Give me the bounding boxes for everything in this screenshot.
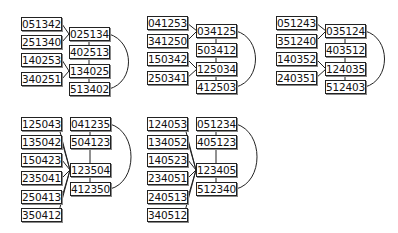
node-right-1: 025134: [69, 27, 110, 41]
node-right-1: 051234: [196, 117, 237, 131]
node-right-3: 123405: [196, 163, 237, 177]
node-right-3: 124035: [325, 62, 366, 76]
node-right-1: 035124: [325, 24, 366, 38]
node-left-4: 234051: [147, 171, 188, 185]
node-left-2: 351240: [276, 34, 317, 48]
node-left-4: 240351: [276, 71, 317, 85]
node-left-5: 240513: [147, 190, 188, 204]
node-left-1: 125043: [21, 117, 62, 131]
node-left-4: 235041: [21, 171, 62, 185]
node-left-2: 341250: [147, 34, 188, 48]
node-left-3: 140253: [21, 53, 62, 67]
node-right-4: 412503: [196, 80, 237, 94]
node-left-3: 150342: [147, 52, 188, 66]
node-right-2: 403512: [325, 43, 366, 57]
node-left-5: 250413: [21, 190, 62, 204]
node-left-3: 150423: [21, 153, 62, 167]
node-right-2: 504123: [70, 135, 111, 149]
node-right-1: 041235: [70, 117, 111, 131]
node-left-1: 051342: [21, 17, 62, 31]
node-right-3: 123504: [70, 163, 111, 177]
node-right-4: 512403: [325, 80, 366, 94]
node-right-2: 503412: [196, 43, 237, 57]
node-left-6: 340512: [147, 208, 188, 222]
node-left-1: 124053: [147, 117, 188, 131]
node-left-2: 251340: [21, 35, 62, 49]
node-left-4: 340251: [21, 72, 62, 86]
node-right-4: 513402: [69, 82, 110, 96]
node-right-2: 405123: [196, 135, 237, 149]
node-right-4: 512340: [196, 182, 237, 196]
node-left-1: 051243: [276, 16, 317, 30]
node-left-4: 250341: [147, 71, 188, 85]
node-left-1: 041253: [147, 16, 188, 30]
node-left-3: 140352: [276, 52, 317, 66]
node-right-3: 125034: [196, 62, 237, 76]
node-left-3: 140523: [147, 153, 188, 167]
node-left-6: 350412: [21, 208, 62, 222]
node-right-3: 134025: [69, 64, 110, 78]
node-right-4: 412350: [70, 182, 111, 196]
node-left-2: 135042: [21, 135, 62, 149]
node-right-2: 402513: [69, 45, 110, 59]
node-right-1: 034125: [196, 24, 237, 38]
node-left-2: 134052: [147, 135, 188, 149]
